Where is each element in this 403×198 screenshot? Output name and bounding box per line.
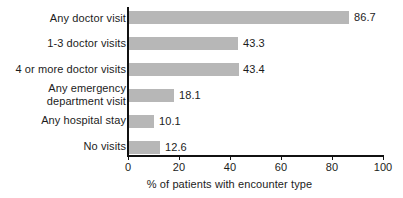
bar-value-label: 43.3	[243, 37, 265, 50]
category-label-4-or-more-doctor-visits: 4 or more doctor visits	[15, 63, 126, 76]
bar-value-label: 10.1	[159, 115, 181, 128]
x-tick-label: 0	[125, 161, 131, 174]
y-axis-line	[127, 7, 129, 156]
category-label-line: department visit	[47, 95, 126, 108]
x-tick-label: 20	[173, 161, 185, 174]
x-tick-mark	[230, 156, 231, 160]
category-label-line: Any hospital stay	[41, 114, 126, 126]
bar-value-label: 18.1	[179, 89, 201, 102]
x-axis-line	[127, 155, 384, 157]
bar-any-doctor-visit	[128, 11, 349, 24]
category-label-line: Any doctor visit	[50, 12, 126, 24]
bar-any-hospital-stay	[128, 115, 154, 128]
bar-value-label: 43.4	[243, 63, 265, 76]
category-label-no-visits: No visits	[84, 140, 126, 153]
category-label-line: Any emergency	[47, 82, 126, 95]
x-tick-label: 60	[275, 161, 287, 174]
x-tick-mark	[179, 156, 180, 160]
category-label-any-hospital-stay: Any hospital stay	[41, 114, 126, 127]
bar-chart: Any doctor visit 1-3 doctor visits 4 or …	[0, 0, 403, 198]
x-tick-mark	[128, 156, 129, 160]
x-tick-label: 100	[374, 161, 393, 174]
x-tick-mark	[281, 156, 282, 160]
bar-no-visits	[128, 141, 160, 154]
category-label-line: 1-3 doctor visits	[47, 37, 126, 49]
x-axis-title: % of patients with encounter type	[0, 178, 403, 191]
category-label-any-emergency-department-visit: Any emergency department visit	[47, 82, 126, 107]
bar-value-label: 12.6	[165, 141, 187, 154]
bar-value-label: 86.7	[354, 11, 376, 24]
category-label-line: No visits	[84, 140, 126, 152]
x-tick-label: 80	[326, 161, 338, 174]
x-tick-mark	[332, 156, 333, 160]
x-tick-mark	[383, 156, 384, 160]
category-label-line: 4 or more doctor visits	[15, 63, 126, 75]
bar-4-or-more-doctor-visits	[128, 63, 239, 76]
x-tick-label: 40	[224, 161, 236, 174]
category-label-any-doctor-visit: Any doctor visit	[50, 12, 126, 25]
bar-any-emergency-department-visit	[128, 89, 174, 102]
bar-1-3-doctor-visits	[128, 37, 238, 50]
plot-area: 86.7 43.3 43.4 18.1 10.1 12.6	[128, 0, 383, 198]
category-label-1-3-doctor-visits: 1-3 doctor visits	[47, 37, 126, 50]
